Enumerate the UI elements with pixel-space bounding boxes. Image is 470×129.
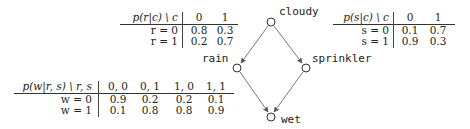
- edge-cloudy-rain: [241, 26, 268, 63]
- cpt-value: 0.3: [427, 36, 449, 47]
- cpt-column-divider: [393, 12, 394, 48]
- cpt-rain-given-cloudy: p(r|c) \ c 0 1 r = 0 0.8 0.3 r = 1 0.2 0…: [120, 12, 238, 48]
- node-cloudy-circle: [267, 18, 275, 26]
- cpt-row: r = 1 0.2 0.7: [120, 36, 238, 47]
- cpt-value: 0.9: [202, 105, 230, 116]
- cpt-value: 0.2: [188, 36, 210, 47]
- cpt-row-label: s = 1: [333, 36, 389, 47]
- cpt-column-header: 1: [427, 12, 449, 23]
- cpt-row: w = 1 0.1 0.8 0.8 0.9: [14, 105, 234, 116]
- cpt-row-label: w = 1: [14, 105, 92, 116]
- cpt-value: 0.8: [170, 105, 198, 116]
- cpt-column-header: 0: [188, 12, 210, 23]
- cpt-header-label: p(w|r, s) \ r, s: [14, 81, 92, 92]
- cpt-column-divider: [182, 12, 183, 48]
- node-label-sprinkler: sprinkler: [312, 52, 372, 65]
- cpt-column-header: 0, 1: [136, 81, 164, 92]
- node-sprinkler-circle: [302, 64, 310, 72]
- cpt-row-label: r = 1: [120, 36, 178, 47]
- edge-rain-wet: [240, 72, 268, 112]
- cpt-value: 0.8: [136, 105, 164, 116]
- node-wet-circle: [267, 113, 275, 121]
- cpt-column-header: 1, 0: [170, 81, 198, 92]
- cpt-header-label: p(r|c) \ c: [120, 12, 178, 23]
- edge-sprinkler-wet: [274, 72, 303, 112]
- cpt-column-divider: [98, 81, 99, 117]
- cpt-value: 0.9: [399, 36, 421, 47]
- cpt-column-header: 1, 1: [202, 81, 230, 92]
- cpt-header-label: p(s|c) \ c: [333, 12, 389, 23]
- node-rain-circle: [233, 64, 241, 72]
- node-label-cloudy: cloudy: [279, 5, 319, 18]
- cpt-row: s = 1 0.9 0.3: [333, 36, 455, 47]
- edge-cloudy-sprinkler: [274, 26, 302, 63]
- cpt-wet-given-rain-sprinkler: p(w|r, s) \ r, s 0, 0 0, 1 1, 0 1, 1 w =…: [14, 81, 234, 117]
- cpt-value: 0.7: [214, 36, 236, 47]
- node-label-rain: rain: [202, 52, 229, 65]
- node-label-wet: wet: [281, 113, 301, 126]
- cpt-column-header: 1: [214, 12, 236, 23]
- cpt-column-header: 0: [399, 12, 421, 23]
- cpt-value: 0.1: [104, 105, 132, 116]
- cpt-sprinkler-given-cloudy: p(s|c) \ c 0 1 s = 0 0.1 0.7 s = 1 0.9 0…: [333, 12, 455, 48]
- cpt-column-header: 0, 0: [104, 81, 132, 92]
